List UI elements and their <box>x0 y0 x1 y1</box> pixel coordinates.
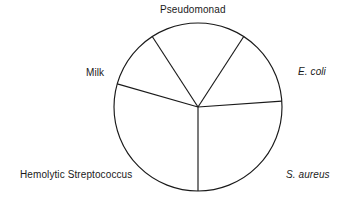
sector-label-e-coli: E. coli <box>298 66 326 78</box>
sector-divider-upper-left <box>198 37 244 107</box>
sector-label-s-aureus: S. aureus <box>286 169 330 181</box>
sector-plate-diagram: Pseudomonad E. coli S. aureus Hemolytic … <box>0 0 348 203</box>
sector-divider-group <box>117 37 282 191</box>
sector-label-milk: Milk <box>86 67 104 79</box>
sector-label-pseudomonad: Pseudomonad <box>160 4 226 16</box>
sector-label-hemolytic-streptococcus: Hemolytic Streptococcus <box>20 169 132 181</box>
sector-divider-upper-right <box>198 101 282 107</box>
